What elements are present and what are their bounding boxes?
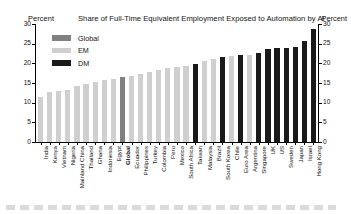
- bar: [183, 66, 188, 142]
- x-axis-label: Singapore: [261, 146, 267, 174]
- y-tick-left: [32, 44, 35, 45]
- x-axis-label: Ghana: [97, 146, 103, 164]
- legend-swatch: [52, 60, 71, 66]
- bar: [129, 76, 134, 142]
- legend-label: Global: [78, 34, 99, 43]
- y-tick-label-right: 30: [323, 21, 330, 28]
- x-tick: [204, 142, 205, 145]
- x-axis-label: Nigeria: [70, 146, 76, 165]
- bar: [284, 48, 289, 142]
- x-axis-label: South Korea: [225, 146, 231, 180]
- x-axis-label: Colombia: [161, 146, 167, 172]
- bar: [229, 56, 234, 142]
- x-tick: [113, 142, 114, 145]
- x-tick: [150, 142, 151, 145]
- y-tick-left: [32, 103, 35, 104]
- x-axis-label: Argentina: [252, 146, 258, 172]
- bar: [83, 84, 88, 142]
- x-tick: [86, 142, 87, 145]
- x-tick: [313, 142, 314, 145]
- x-tick: [95, 142, 96, 145]
- y-tick-label-right: 0: [323, 139, 327, 146]
- left-axis-unit-label: Percent: [28, 14, 54, 23]
- bar: [38, 97, 43, 142]
- y-tick-label-left: 10: [24, 99, 31, 106]
- y-tick-label-right: 15: [323, 80, 330, 87]
- x-axis-label: Japan: [298, 146, 304, 163]
- x-tick: [213, 142, 214, 145]
- x-axis-label: Taiwan: [197, 146, 203, 165]
- bar: [74, 86, 79, 142]
- bar: [47, 92, 52, 142]
- bar: [165, 68, 170, 142]
- x-tick: [268, 142, 269, 145]
- y-tick-right: [319, 103, 322, 104]
- bar: [202, 61, 207, 142]
- legend-item: EM: [52, 46, 99, 56]
- page-footer-cropped: [0, 202, 351, 214]
- x-tick: [68, 142, 69, 145]
- x-axis-label: Euro Area: [243, 146, 249, 173]
- bar: [120, 77, 125, 142]
- y-tick-left: [32, 24, 35, 25]
- x-axis-category-labels: IndiaKenyaVietnamNigeriaMainland ChinaTh…: [36, 146, 318, 192]
- x-tick: [132, 142, 133, 145]
- x-tick: [77, 142, 78, 145]
- x-axis-label: Global: [125, 146, 131, 165]
- y-tick-right: [319, 122, 322, 123]
- x-axis-label: Egypt: [116, 146, 122, 162]
- x-tick: [286, 142, 287, 145]
- x-tick: [241, 142, 242, 145]
- y-tick-right: [319, 24, 322, 25]
- x-tick: [304, 142, 305, 145]
- y-tick-label-left: 25: [24, 40, 31, 47]
- bar: [293, 47, 298, 142]
- y-tick-right: [319, 63, 322, 64]
- y-tick-left: [32, 142, 35, 143]
- legend-item: DM: [52, 58, 99, 68]
- bar: [265, 49, 270, 142]
- bar: [211, 59, 216, 142]
- x-tick: [122, 142, 123, 145]
- bar: [302, 41, 307, 142]
- x-tick: [41, 142, 42, 145]
- bar: [238, 55, 243, 142]
- y-tick-label-right: 5: [323, 119, 327, 126]
- x-axis-label: Turkey: [152, 146, 158, 164]
- y-tick-right: [319, 44, 322, 45]
- y-tick-label-left: 30: [24, 21, 31, 28]
- x-tick: [141, 142, 142, 145]
- legend-item: Global: [52, 33, 99, 43]
- y-tick-label-right: 25: [323, 40, 330, 47]
- bar: [247, 55, 252, 142]
- x-tick: [259, 142, 260, 145]
- x-axis-label: US: [279, 146, 285, 154]
- bar: [311, 29, 316, 142]
- x-axis-label: Vietnam: [61, 146, 67, 168]
- x-axis-label: Brazil: [216, 146, 222, 161]
- y-tick-left: [32, 63, 35, 64]
- bar: [156, 70, 161, 142]
- bar: [138, 74, 143, 142]
- chart-legend: GlobalEMDM: [52, 33, 99, 71]
- x-axis-label: Israel: [307, 146, 313, 161]
- x-tick: [159, 142, 160, 145]
- x-tick: [186, 142, 187, 145]
- y-tick-label-left: 15: [24, 80, 31, 87]
- x-tick: [295, 142, 296, 145]
- y-tick-label-left: 0: [27, 139, 31, 146]
- y-tick-label-left: 5: [27, 119, 31, 126]
- x-axis-label: Peru: [170, 146, 176, 159]
- y-tick-left: [32, 122, 35, 123]
- x-tick: [232, 142, 233, 145]
- footer-text-strip: [6, 205, 336, 210]
- y-tick-label-left: 20: [24, 60, 31, 67]
- x-tick: [177, 142, 178, 145]
- x-axis-label: Thailand: [88, 146, 94, 169]
- bar: [193, 64, 198, 142]
- x-axis-label: Philippines: [143, 146, 149, 175]
- x-axis-label: India: [43, 146, 49, 159]
- x-axis-label: Hong Kong: [316, 146, 322, 177]
- bar: [102, 80, 107, 142]
- x-tick: [277, 142, 278, 145]
